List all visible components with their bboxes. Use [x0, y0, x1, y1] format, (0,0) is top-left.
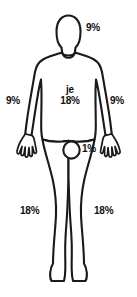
left-hand-outline [17, 134, 37, 157]
groin-circle [63, 141, 79, 158]
torso-note-text: je [52, 84, 88, 95]
head-percentage-label: 9% [86, 22, 100, 33]
torso-percentage-label: je 18% [52, 84, 88, 106]
right-leg-percentage-label: 18% [94, 205, 113, 216]
body-outline-figure [0, 0, 137, 297]
left-leg-outline [43, 140, 69, 282]
groin-percentage-label: 1% [82, 143, 96, 154]
right-arm-percentage-label: 9% [110, 95, 124, 106]
left-leg-percentage-label: 18% [20, 205, 39, 216]
rule-of-nines-diagram: 9% 9% 9% je 18% 1% 18% 18% [0, 0, 137, 297]
right-leg-outline [69, 140, 95, 282]
right-hand-outline [100, 134, 120, 157]
head-outline [57, 16, 81, 56]
left-arm-percentage-label: 9% [6, 95, 20, 106]
torso-percentage-value: 18% [52, 95, 88, 106]
